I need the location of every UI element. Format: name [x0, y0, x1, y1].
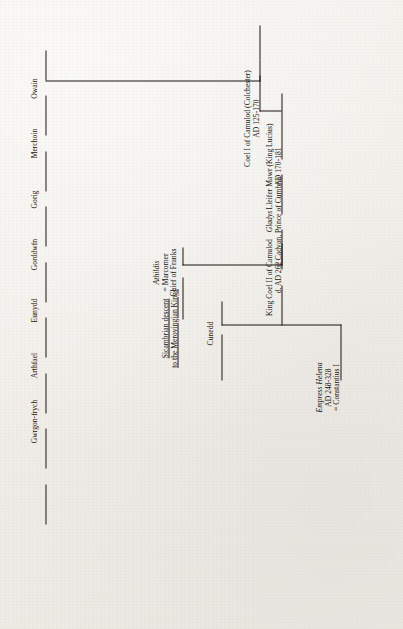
connector-line: [45, 206, 46, 246]
king-coel-ii-dates: d. AD 262: [274, 239, 283, 316]
connector-line: [221, 301, 222, 325]
connector-line: [45, 262, 46, 302]
node-label-cunedd: Cunedd: [206, 321, 215, 345]
connector-line: [45, 373, 46, 413]
sicambrian-descent-line-1: Sicambrian descent: [161, 289, 170, 368]
connector-line: [45, 95, 46, 135]
node-label-king-coel-ii: King Coel II of Camulod d. AD 262: [265, 239, 282, 316]
chart-page: Owain Merchoin Gorig Gorddwfn Eunydd Art…: [0, 0, 403, 629]
connector-line: [182, 247, 183, 265]
node-label-merchoin: Merchoin: [30, 128, 39, 158]
node-label-gorddwfn: Gorddwfn: [30, 238, 39, 269]
connector-line: [259, 25, 260, 59]
coel-i-dates: AD 125-170: [252, 70, 261, 167]
node-label-empress-helena: Empress Helena AD 248-328 = Constantius …: [315, 362, 341, 412]
node-label-owain: Owain: [30, 78, 39, 98]
athildis-name: Athildis: [152, 248, 161, 296]
node-label-gwrgon-frych: Gwrgon-frych: [30, 399, 39, 443]
connector-line: [45, 151, 46, 191]
connector-line: [259, 110, 281, 111]
rotated-chart-canvas: Owain Merchoin Gorig Gorddwfn Eunydd Art…: [0, 0, 403, 629]
node-label-eunydd: Eunydd: [30, 298, 39, 322]
connector-line: [45, 50, 46, 80]
connector-line: [221, 324, 341, 325]
connector-line: [182, 277, 183, 319]
node-label-coel-i: Coel I of Camulod (Colchester) AD 125-17…: [243, 70, 260, 167]
connector-line: [45, 484, 46, 524]
sicambrian-descent-note: Sicambrian descent to the Merovingian Ki…: [161, 289, 178, 368]
sicambrian-descent-line-2: to the Merovingian Kings: [170, 289, 179, 368]
connector-line: [45, 80, 260, 81]
empress-helena-spouse: = Constantius I: [332, 362, 341, 412]
connector-line: [45, 317, 46, 357]
coel-i-name: Coel I of Camulod (Colchester): [243, 70, 252, 167]
connector-line: [221, 334, 222, 380]
empress-helena-name: Empress Helena: [315, 362, 324, 412]
node-label-arthfael: Arthfael: [30, 352, 39, 377]
king-coel-ii-name: King Coel II of Camulod: [265, 239, 274, 316]
connector-line: [45, 428, 46, 468]
node-label-gorig: Gorig: [30, 190, 39, 208]
